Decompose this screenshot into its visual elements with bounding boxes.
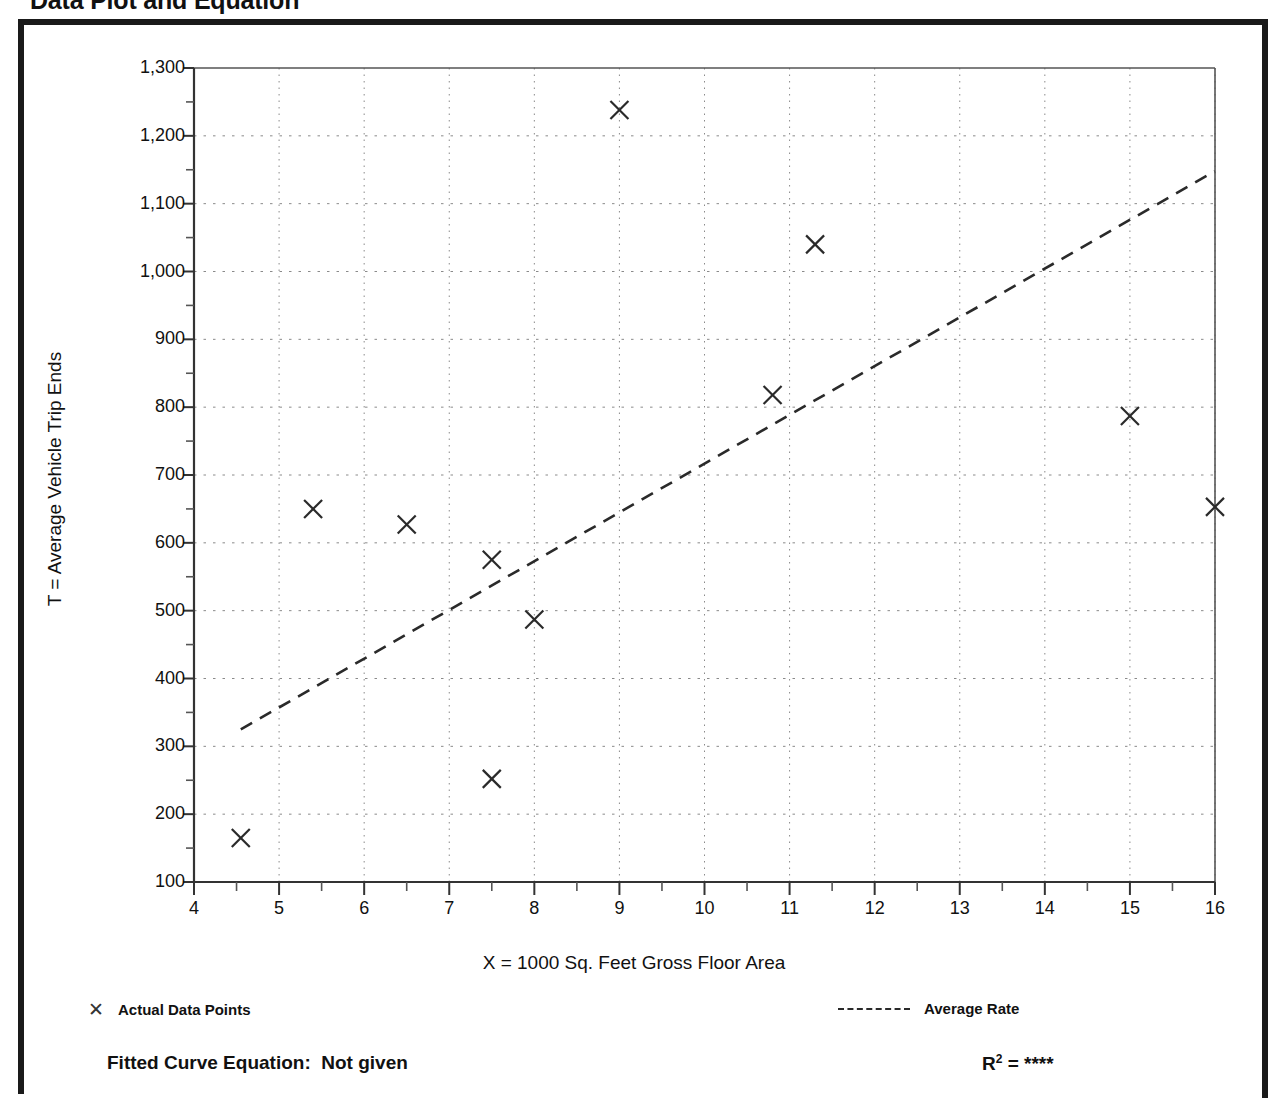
x-axis-tick-label: 10 (683, 898, 727, 919)
r-squared-prefix: R (982, 1053, 996, 1074)
y-axis-title: T = Average Vehicle Trip Ends (44, 269, 66, 689)
x-axis-tick-label: 13 (938, 898, 982, 919)
data-point-marker (764, 386, 782, 404)
r-squared-stars: **** (1024, 1053, 1054, 1074)
y-axis-tick-label: 200 (105, 803, 185, 824)
y-axis-tick-label: 100 (105, 871, 185, 892)
x-axis-tick-label: 15 (1108, 898, 1152, 919)
y-axis-tick-label: 800 (105, 396, 185, 417)
x-axis-tick-labels: 45678910111213141516 (0, 898, 1268, 928)
y-axis-tick-label: 1,200 (105, 125, 185, 146)
data-point-marker (610, 101, 628, 119)
y-axis-tick-label: 500 (105, 600, 185, 621)
y-axis-tick-label: 1,100 (105, 193, 185, 214)
chart-figure: 1002003004005006007008009001,0001,1001,2… (0, 0, 1268, 1098)
y-axis-tick-labels: 1002003004005006007008009001,0001,1001,2… (105, 0, 185, 890)
x-axis-tick-label: 12 (853, 898, 897, 919)
y-axis-tick-label: 300 (105, 735, 185, 756)
x-axis-tick-label: 7 (427, 898, 471, 919)
x-axis-tick-label: 5 (257, 898, 301, 919)
r-squared-value: R2 = **** (982, 1052, 1054, 1075)
x-axis-tick-label: 16 (1193, 898, 1237, 919)
r-squared-equals: = (1002, 1053, 1024, 1074)
legend-entry-average-rate: Average Rate (838, 1000, 1019, 1017)
dashed-line-icon (838, 1008, 910, 1010)
x-axis-title: X = 1000 Sq. Feet Gross Floor Area (0, 952, 1268, 974)
data-point-marker (483, 770, 501, 788)
y-axis-tick-label: 400 (105, 668, 185, 689)
data-point-marker (525, 610, 543, 628)
x-axis-tick-label: 14 (1023, 898, 1067, 919)
data-point-marker (483, 551, 501, 569)
legend-label-data-points: Actual Data Points (118, 1001, 251, 1018)
y-axis-tick-label: 1,000 (105, 261, 185, 282)
data-point-marker (398, 516, 416, 534)
y-axis-tick-label: 900 (105, 328, 185, 349)
x-axis-tick-label: 6 (342, 898, 386, 919)
data-point-marker (304, 500, 322, 518)
y-axis-tick-label: 600 (105, 532, 185, 553)
chart-footer: Fitted Curve Equation: Not given R2 = **… (0, 1052, 1268, 1092)
x-axis-tick-label: 11 (768, 898, 812, 919)
scatter-plot-canvas (0, 0, 1268, 1098)
data-point-marker (232, 829, 250, 847)
chart-legend: ✕ Actual Data Points Average Rate (0, 1000, 1268, 1034)
legend-label-average-rate: Average Rate (924, 1000, 1019, 1017)
y-axis-tick-label: 700 (105, 464, 185, 485)
x-marker-icon: ✕ (88, 1000, 104, 1019)
x-axis-tick-label: 4 (172, 898, 216, 919)
legend-entry-data-points: ✕ Actual Data Points (88, 1000, 251, 1019)
data-point-marker (1121, 407, 1139, 425)
data-point-marker (806, 235, 824, 253)
x-axis-tick-label: 8 (512, 898, 556, 919)
x-axis-tick-label: 9 (597, 898, 641, 919)
fitted-curve-equation: Fitted Curve Equation: Not given (107, 1052, 408, 1074)
y-axis-tick-label: 1,300 (105, 57, 185, 78)
